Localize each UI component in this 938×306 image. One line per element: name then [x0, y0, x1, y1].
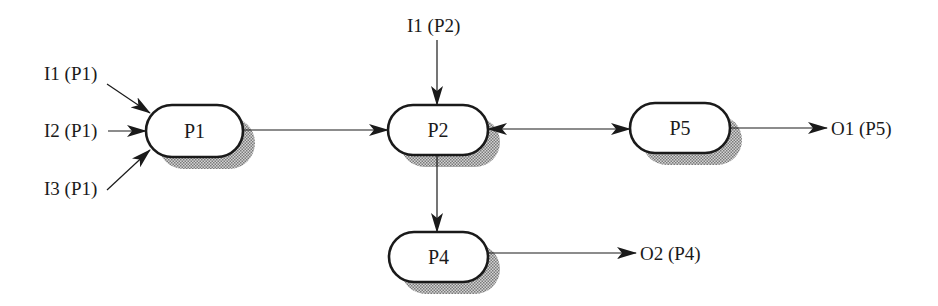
- output-label-o1-p5: O1 (P5): [831, 118, 892, 140]
- output-label-o2-p4: O2 (P4): [640, 243, 701, 265]
- node-p2[interactable]: P2: [388, 105, 488, 155]
- input-label-i1-p1: I1 (P1): [44, 63, 97, 85]
- input-label-i3-p1: I3 (P1): [44, 178, 97, 200]
- node-p1-label: P1: [184, 120, 205, 142]
- node-p4-label: P4: [428, 246, 449, 268]
- node-p4[interactable]: P4: [389, 232, 488, 282]
- node-p5[interactable]: P5: [630, 103, 730, 153]
- process-flow-diagram: P1 P2 P5 P4 I1 (P1) I2 (P1) I3 (P1) I1 (…: [0, 0, 938, 306]
- node-p5-label: P5: [669, 117, 690, 139]
- edge-i1p1-to-p1: [107, 84, 150, 113]
- input-label-i1-p2: I1 (P2): [407, 15, 460, 37]
- node-p1[interactable]: P1: [146, 105, 243, 157]
- node-p2-label: P2: [427, 119, 448, 141]
- edge-i3p1-to-p1: [107, 150, 150, 190]
- input-label-i2-p1: I2 (P1): [44, 120, 97, 142]
